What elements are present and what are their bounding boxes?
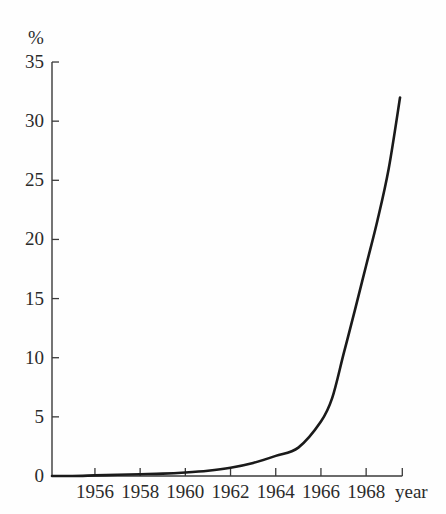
chart-canvas: % year 05101520253035 195619581960196219… [0, 0, 446, 514]
axis-ticks [52, 62, 402, 476]
axis-lines [52, 62, 402, 476]
data-series-line [52, 98, 400, 477]
plot-area [0, 0, 446, 514]
